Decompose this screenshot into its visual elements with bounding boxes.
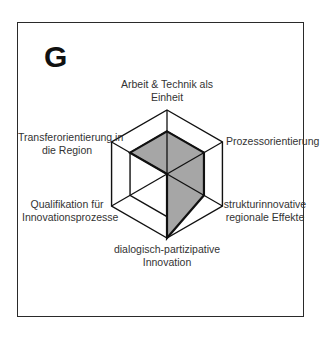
axis-label-arbeit-technik: Arbeit & Technik als Einheit (112, 78, 222, 104)
label-line: Innovationsprozesse (22, 211, 112, 224)
axis-label-dialogisch: dialogisch-partizipative Innovation (112, 243, 222, 269)
radar-chart (0, 0, 325, 340)
axis-label-strukturinnovative: strukturinnovative regionale Effekte (222, 198, 308, 224)
label-line: die Region (18, 144, 116, 157)
label-line: Einheit (112, 91, 222, 104)
label-line: Transferorientierung in (18, 131, 116, 144)
label-line: Arbeit & Technik als (112, 78, 222, 91)
label-line: Prozessorientierung (226, 135, 319, 148)
axis-label-transferorientierung: Transferorientierung in die Region (18, 131, 116, 157)
label-line: strukturinnovative (222, 198, 308, 211)
label-line: dialogisch-partizipative (112, 243, 222, 256)
axis-label-qualifikation: Qualifikation für Innovationsprozesse (22, 198, 112, 224)
label-line: Qualifikation für (22, 198, 112, 211)
radar-spokes (112, 110, 223, 238)
axis-label-prozessorientierung: Prozessorientierung (226, 135, 319, 148)
label-line: regionale Effekte (222, 211, 308, 224)
label-line: Innovation (112, 256, 222, 269)
